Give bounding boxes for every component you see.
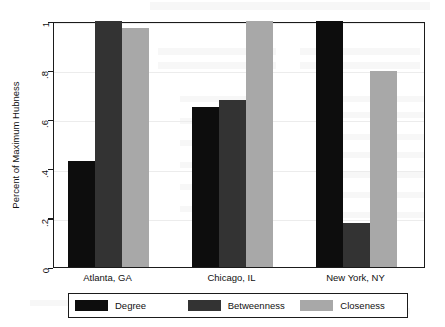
- bar: [316, 21, 343, 267]
- legend-swatch: [188, 300, 221, 311]
- x-axis-tick-label: Chicago, IL: [172, 272, 292, 283]
- gridline: [54, 269, 424, 270]
- legend-item: Betweenness: [182, 300, 295, 311]
- y-axis-tick-label: 1: [40, 22, 51, 27]
- y-axis-tick-label: .4: [40, 170, 51, 178]
- y-axis-title-text: Percent of Maximum Hubness: [10, 81, 21, 208]
- bar-group: [54, 23, 424, 267]
- y-axis-tick-label: .6: [40, 120, 51, 128]
- chart-legend: DegreeBetweennessCloseness: [68, 293, 408, 318]
- legend-label: Closeness: [340, 300, 384, 311]
- bar: [343, 223, 370, 267]
- plot-frame: [53, 22, 425, 268]
- legend-swatch: [75, 300, 108, 311]
- legend-swatch: [300, 300, 333, 311]
- legend-label: Degree: [115, 300, 146, 311]
- bar: [370, 71, 397, 267]
- plot-area: [54, 23, 424, 267]
- legend-item: Degree: [69, 300, 182, 311]
- legend-label: Betweenness: [228, 300, 285, 311]
- y-axis-tick-label: .2: [40, 219, 51, 227]
- y-axis-tick-label: .8: [40, 71, 51, 79]
- x-axis-tick-label: New York, NY: [296, 272, 416, 283]
- x-axis-tick-label: Atlanta, GA: [48, 272, 168, 283]
- bar-chart: Percent of Maximum Hubness 0.2.4.6.81 At…: [0, 0, 445, 327]
- legend-item: Closeness: [294, 300, 407, 311]
- y-axis-title: Percent of Maximum Hubness: [8, 22, 22, 268]
